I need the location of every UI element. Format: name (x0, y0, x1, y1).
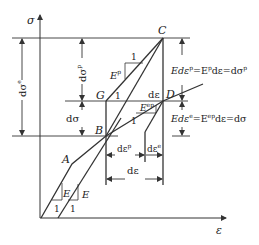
label-d-eps-top: dε (148, 89, 160, 100)
label-d-eps-p: dεp (117, 142, 131, 154)
slope-triangles (52, 63, 156, 200)
equation-plastic: Edεp=Epdε=dσp (170, 64, 247, 76)
label-G-unit: 1 (115, 91, 121, 101)
point-B: B (94, 124, 103, 137)
epsilon-axis-label: ε (216, 224, 222, 237)
point-C: C (158, 24, 167, 37)
label-d-sigma: dσ (66, 113, 79, 124)
label-E-2: E (81, 189, 90, 200)
label-d-sigma-e: dσe (15, 80, 28, 97)
label-1-b: 1 (70, 204, 76, 214)
label-d-sigma-p: dσp (75, 65, 88, 82)
stress-strain-diagram: σ ε (0, 0, 259, 245)
label-Ep: Ep (109, 68, 121, 81)
label-d-eps-e: dεe (147, 142, 161, 154)
label-Ep-unit: 1 (131, 52, 137, 62)
sigma-axis-label: σ (27, 14, 35, 27)
equation-elastic: Edεe=Eepdε=dσ (170, 112, 247, 124)
point-G: G (96, 89, 105, 102)
point-A: A (61, 153, 70, 166)
label-Eep: Eep (139, 101, 154, 113)
label-Eep-unit: 1 (131, 116, 137, 126)
elastic-line-B (58, 118, 121, 218)
point-D: D (165, 88, 175, 101)
label-E-1: E (62, 188, 71, 199)
label-1-a: 1 (54, 204, 60, 214)
label-d-eps: dε (127, 165, 139, 176)
